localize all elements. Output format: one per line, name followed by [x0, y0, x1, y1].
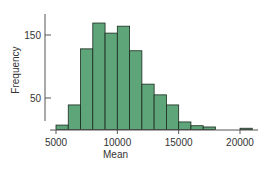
- x-tick-label: 5000: [45, 137, 68, 148]
- histogram-bar: [154, 95, 166, 130]
- y-axis-title: Frequency: [10, 46, 21, 93]
- histogram-bar: [117, 26, 129, 129]
- histogram-bar: [166, 105, 178, 130]
- x-tick-label: 15000: [165, 137, 193, 148]
- y-tick-label: 50: [30, 93, 42, 104]
- y-axis-ticks: 50150: [24, 30, 51, 104]
- histogram-bar: [191, 126, 203, 130]
- histogram-bar: [56, 125, 68, 129]
- x-axis-ticks: 5000100001500020000: [45, 130, 254, 148]
- histogram-bars: [56, 23, 252, 129]
- histogram-bar: [68, 105, 80, 130]
- histogram-bar: [105, 33, 117, 129]
- histogram-bar: [179, 122, 191, 130]
- histogram-bar: [130, 51, 142, 130]
- x-tick-label: 10000: [103, 137, 131, 148]
- x-axis-title: Mean: [103, 149, 128, 160]
- histogram-bar: [81, 49, 93, 130]
- histogram-bar: [240, 128, 252, 129]
- histogram-bar: [142, 84, 154, 129]
- y-tick-label: 150: [24, 30, 41, 41]
- histogram-bar: [93, 23, 105, 129]
- histogram-chart: 50150 5000100001500020000 Frequency Mean: [0, 0, 274, 171]
- histogram-bar: [203, 127, 215, 130]
- x-tick-label: 20000: [226, 137, 254, 148]
